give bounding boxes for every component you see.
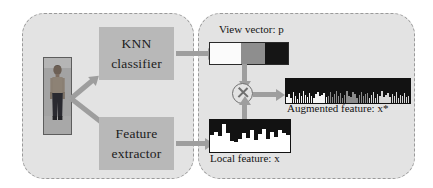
histogram-bar <box>286 135 289 152</box>
view-vector-segment <box>241 43 264 64</box>
augmented-feature-label: Augmented feature: x* <box>287 102 388 114</box>
histogram-bar <box>408 96 409 103</box>
view-vector-label: View vector: p <box>219 23 284 35</box>
view-vector-bar <box>209 42 289 65</box>
arrow-view-vector-to-operator <box>242 64 247 82</box>
histogram-bar <box>262 129 265 152</box>
histogram-bar <box>222 124 225 152</box>
local-feature-histogram <box>209 119 291 153</box>
histogram-bar <box>242 133 245 152</box>
histogram-bar <box>254 140 257 152</box>
arrow-operator-to-augmented-feature <box>253 92 277 97</box>
local-feature-label: Local feature: x <box>210 152 280 164</box>
histogram-bar <box>210 135 213 152</box>
view-vector-segment <box>210 43 241 64</box>
histogram-bar <box>266 139 269 152</box>
diagram-canvas: KNN classifier Feature extractor View ve… <box>0 0 433 188</box>
pedestrian-photo-icon <box>44 58 71 134</box>
feature-box-line2: extractor <box>112 144 162 164</box>
view-vector-segment <box>265 43 288 64</box>
histogram-bar <box>246 138 249 152</box>
histogram-bar <box>230 141 233 152</box>
histogram-bar <box>238 139 241 152</box>
histogram-bar <box>282 133 285 152</box>
augmented-feature-histogram <box>285 78 411 104</box>
knn-box-line1: KNN <box>122 34 152 54</box>
histogram-bar <box>214 132 217 152</box>
histogram-bar <box>258 134 261 152</box>
knn-classifier-box[interactable]: KNN classifier <box>99 27 174 80</box>
histogram-bar <box>226 133 229 152</box>
histogram-bar <box>278 130 281 152</box>
histogram-bar <box>218 136 221 152</box>
pedestrian-image <box>43 57 72 135</box>
histogram-bar <box>250 130 253 152</box>
arrow-extractor-to-local-feature <box>176 141 206 146</box>
histogram-bar <box>234 142 237 152</box>
histogram-bar <box>274 137 277 152</box>
knn-box-line2: classifier <box>111 54 162 74</box>
feature-extractor-box[interactable]: Feature extractor <box>99 117 174 170</box>
arrow-knn-to-view-vector <box>176 51 209 56</box>
feature-box-line1: Feature <box>116 124 158 144</box>
histogram-bar <box>270 132 273 152</box>
